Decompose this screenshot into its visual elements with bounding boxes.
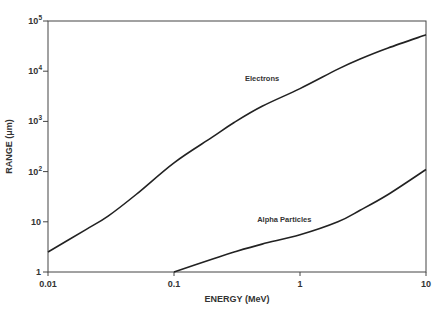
y-tick-label: 105 (28, 14, 42, 26)
y-tick-label: 103 (28, 114, 42, 126)
x-tick-label: 1 (297, 279, 302, 289)
y-axis-title: RANGE (μm) (4, 119, 14, 174)
y-tick-label: 104 (28, 64, 42, 76)
electrons-label: Electrons (245, 74, 279, 83)
x-tick-label: 0.01 (39, 279, 57, 289)
y-tick-label: 1 (36, 267, 41, 277)
electrons-curve (48, 35, 426, 252)
y-tick-label: 10 (31, 217, 41, 227)
plot-frame (48, 21, 426, 272)
x-tick-label: 0.1 (168, 279, 181, 289)
y-tick-label: 102 (28, 165, 42, 177)
range-energy-chart: 1101021031041050.010.1110ENERGY (MeV)RAN… (0, 0, 444, 313)
x-axis-title: ENERGY (MeV) (205, 294, 270, 304)
alpha-particles-label: Alpha Particles (257, 215, 311, 224)
x-tick-label: 10 (421, 279, 431, 289)
